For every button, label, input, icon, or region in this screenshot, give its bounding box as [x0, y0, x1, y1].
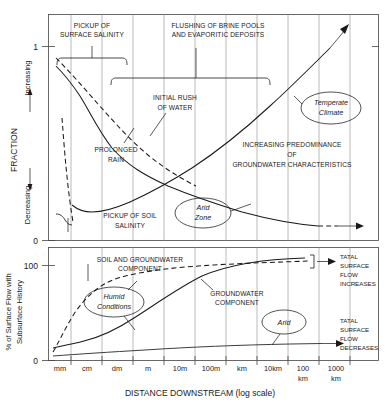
callout-temperate-climate: Temperate Climate — [294, 92, 361, 124]
label-pickup-surface-salinity-1: PICKUP OF — [74, 22, 110, 29]
xtick-km: km — [237, 364, 247, 373]
curve-arid — [53, 344, 322, 357]
leader-humid-conditions-up — [128, 281, 137, 290]
label-groundwater-component-2: COMPONENT — [215, 299, 259, 306]
label-humid-conditions-1: Humid — [104, 292, 126, 301]
label-increasing-predominance-1: INCREASING PREDOMINANCE — [242, 141, 342, 148]
groundwater-predominance-arrow — [330, 24, 349, 48]
label-humid-conditions-2: Conditions — [97, 302, 131, 311]
leader-arid — [272, 334, 280, 345]
figure-root: 1 0 FRACTION Increasing Decreasing — [0, 0, 388, 404]
leader-arid-zone — [231, 204, 251, 211]
curve-soil-salinity-hook — [56, 214, 72, 225]
label-soil-and-groundwater-2: COMPONENT — [118, 265, 162, 272]
label-flushing-2: AND EVAPORITIC DEPOSITS — [172, 31, 265, 38]
label-total-decreases-4: DECREASES — [340, 344, 378, 351]
curve-initial-rush-of-water — [56, 58, 196, 186]
upper-y-decreasing-label: Decreasing — [23, 186, 32, 224]
upper-y-arrows — [28, 88, 33, 191]
xtick-cm: cm — [82, 364, 92, 373]
label-pickup-soil-salinity-1: PICKUP OF SOIL — [103, 212, 157, 219]
xtick-10m: 10m — [173, 364, 187, 373]
hydrology-figure: 1 0 FRACTION Increasing Decreasing — [0, 0, 388, 404]
label-total-surface-flow-increases: TATAL SURFACE FLOW INCREASES — [340, 253, 376, 287]
label-pickup-surface-salinity-2: SURFACE SALINITY — [60, 31, 124, 38]
total-increases-arrow — [317, 258, 336, 265]
label-total-decreases-1: TATAL — [340, 317, 358, 324]
x-axis-tick-labels: mm cm dm m 10m 100m km 10km 100 km 1000 … — [54, 364, 344, 383]
xtick-dm: dm — [112, 364, 122, 373]
bracket-total-increases — [310, 255, 314, 268]
x-axis-title: DISTANCE DOWNSTREAM (log scale) — [125, 388, 275, 398]
curve-groundwater-predominance — [72, 48, 330, 212]
lower-panel: 100 0 % of Surface Flow with Subsurface … — [4, 248, 379, 399]
upper-ytick-0: 0 — [33, 236, 38, 246]
label-temperate-climate-1: Temperate — [314, 98, 348, 107]
xtick-100km-1: 100 — [297, 364, 309, 373]
upper-panel: 1 0 FRACTION Increasing Decreasing — [9, 15, 379, 246]
leader-initial-rush — [150, 113, 166, 136]
lower-ytick-0: 0 — [33, 356, 38, 366]
label-arid-zone-1: Arid — [196, 203, 211, 212]
label-initial-rush-2: OF WATER — [158, 104, 193, 111]
label-increasing-predominance-2: OF — [287, 151, 296, 158]
label-total-increases-3: FLOW — [340, 271, 358, 278]
xtick-100m: 100m — [202, 364, 221, 373]
xtick-1000km-1: 1000 — [328, 364, 344, 373]
leader-temperate-climate — [294, 96, 302, 104]
label-arid-zone-2: Zone — [194, 213, 211, 222]
label-total-surface-flow-decreases: TATAL SURFACE FLOW DECREASES — [340, 317, 378, 351]
label-increasing-predominance-3: GROUNDWATER CHARACTERISTICS — [232, 161, 352, 168]
label-prolonged-rain-1: PROLONGED — [94, 146, 137, 153]
label-total-increases-2: SURFACE — [340, 262, 369, 269]
xtick-1000km-2: km — [331, 374, 341, 383]
bracket-pickup-surface-salinity — [57, 58, 127, 65]
callout-arid: Arid — [262, 310, 306, 345]
surface-salinity-arrow — [338, 223, 364, 230]
lower-y-axis-title-1: % of Surface Flow with — [4, 273, 13, 350]
upper-y-axis-title: FRACTION — [9, 128, 19, 172]
label-total-decreases-2: SURFACE — [340, 326, 369, 333]
label-pickup-soil-salinity-2: SALINITY — [115, 222, 146, 229]
callout-humid-conditions: Humid Conditions — [84, 281, 144, 330]
label-total-increases-1: TATAL — [340, 253, 358, 260]
bracket-flushing — [111, 78, 270, 85]
xtick-mm: mm — [54, 364, 66, 373]
lower-y-axis-title-2: Subsurface History — [15, 280, 24, 344]
label-prolonged-rain-2: RAIN — [108, 156, 124, 163]
curve-groundwater-component — [53, 258, 305, 348]
label-total-decreases-3: FLOW — [340, 335, 358, 342]
label-initial-rush-1: INITIAL RUSH — [153, 94, 197, 101]
label-flushing-1: FLUSHING OF BRINE POOLS — [171, 22, 265, 29]
xtick-m: m — [145, 364, 151, 373]
upper-gridlines — [71, 15, 350, 241]
xtick-100km-2: km — [298, 374, 308, 383]
curve-prolonged-rain-left — [62, 118, 73, 222]
leader-groundwater-component — [201, 279, 213, 290]
label-soil-and-groundwater-1: SOIL AND GROUNDWATER — [97, 256, 184, 263]
label-temperate-climate-2: Climate — [319, 108, 343, 117]
lower-ytick-100: 100 — [24, 261, 38, 271]
leader-prolonged-rain — [124, 128, 134, 143]
label-groundwater-component-1: GROUNDWATER — [210, 290, 264, 297]
label-arid: Arid — [277, 318, 292, 327]
upper-ytick-1: 1 — [33, 42, 38, 52]
label-total-increases-4: INCREASES — [340, 280, 376, 287]
xtick-10km: 10km — [264, 364, 282, 373]
